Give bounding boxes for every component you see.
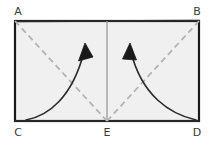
- vertex-label-c: C: [14, 126, 22, 139]
- figure-canvas: A B C D E: [0, 0, 214, 146]
- geometry-figure: A B C D E: [0, 0, 214, 146]
- vertex-label-a: A: [14, 5, 22, 18]
- vertex-label-e: E: [104, 126, 111, 139]
- vertex-label-d: D: [193, 126, 201, 139]
- vertex-label-b: B: [193, 5, 201, 18]
